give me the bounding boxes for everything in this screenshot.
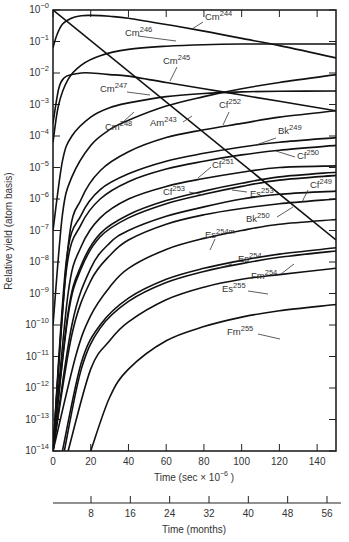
y-tick-label: 10−0 <box>29 1 49 15</box>
plot-frame <box>53 10 336 451</box>
series-label-am243: Am243 <box>150 115 177 128</box>
plot-border <box>53 10 336 451</box>
series-label-cf250: Cf250 <box>297 148 319 161</box>
y-tick-label: 10−1 <box>29 33 49 47</box>
series-line-cf249 <box>53 191 336 451</box>
series-label-cm244: Cm244 <box>205 9 232 22</box>
series-curves <box>53 10 336 451</box>
y-tick-label: 10−3 <box>29 96 49 110</box>
series-line-cm244 <box>53 15 336 58</box>
x-tick-label: 0 <box>50 456 56 467</box>
series-line-fm255 <box>91 305 336 452</box>
series-line-bk250 <box>53 199 336 451</box>
series-line-fm254 <box>64 251 336 451</box>
y-axis: 10−010−110−210−310−410−510−610−710−810−9… <box>25 1 336 456</box>
series-label-cf252: Cf252 <box>219 97 241 110</box>
x-tick-label: 40 <box>123 456 135 467</box>
series-label-es254m: Es254m <box>205 227 235 240</box>
y-tick-label: 10−9 <box>29 285 49 299</box>
month-tick-label: 40 <box>243 508 255 519</box>
month-tick-label: 16 <box>125 508 137 519</box>
series-label-es255: Es255 <box>222 281 246 294</box>
series-label-cf253: Cf253 <box>163 184 185 197</box>
x-tick-label: 100 <box>233 456 250 467</box>
month-tick-label: 24 <box>164 508 176 519</box>
x-axis: 020406080100120140 <box>50 10 326 467</box>
secondary-x-axis: 8162432404856 <box>53 496 341 519</box>
series-line-cf252 <box>53 111 336 451</box>
series-label-fm255: Fm255 <box>227 324 253 337</box>
y-tick-label: 10−8 <box>29 253 49 267</box>
y-axis-label: Relative yield (atom basis) <box>3 172 14 289</box>
y-tick-label: 10−2 <box>29 64 49 78</box>
series-line-cm248 <box>53 75 336 325</box>
series-label-cf249: Cf249 <box>310 177 332 190</box>
series-label-fm254: Fm254 <box>251 268 277 281</box>
y-tick-label: 10−5 <box>29 159 49 173</box>
month-tick-label: 8 <box>88 508 94 519</box>
series-label-cm245: Cm245 <box>163 53 190 66</box>
month-tick-label: 56 <box>321 508 333 519</box>
series-label-bk249: Bk249 <box>278 123 302 136</box>
y-tick-label: 10−12 <box>25 379 49 393</box>
series-label-cf251: Cf251 <box>212 157 234 170</box>
series-label-cm246: Cm246 <box>125 25 152 38</box>
y-tick-label: 10−14 <box>25 442 49 456</box>
series-label-bk250: Bk250 <box>246 211 270 224</box>
x-tick-label: 20 <box>85 456 97 467</box>
month-tick-label: 48 <box>282 508 294 519</box>
series-line-cf250 <box>53 145 336 451</box>
yield-chart: 10−010−110−210−310−410−510−610−710−810−9… <box>0 0 349 542</box>
y-tick-label: 10−6 <box>29 190 49 204</box>
series-label-cm247: Cm247 <box>100 81 127 94</box>
x-tick-label: 140 <box>309 456 326 467</box>
y-tick-label: 10−7 <box>29 222 49 236</box>
month-tick-label: 32 <box>203 508 215 519</box>
x-tick-label: 80 <box>198 456 210 467</box>
series-labels: Cm244Cm246Cm245Cm247Cm248Am243Cf252Bk249… <box>100 9 332 339</box>
x-axis-label: Time (sec × 10−6 ) <box>154 470 234 483</box>
series-label-cm248: Cm248 <box>105 119 132 132</box>
series-line-cf253 <box>53 172 336 451</box>
x-tick-label: 60 <box>161 456 173 467</box>
x-tick-label: 120 <box>271 456 288 467</box>
y-tick-label: 10−4 <box>29 127 49 141</box>
y-tick-label: 10−11 <box>26 348 49 362</box>
series-line-es255 <box>68 268 336 451</box>
series-line-bk249 <box>53 138 336 451</box>
y-tick-label: 10−10 <box>25 316 49 330</box>
series-line-es254 <box>62 248 336 451</box>
y-tick-label: 10−13 <box>25 411 49 425</box>
series-label-es253: Es253 <box>250 186 274 199</box>
secondary-x-axis-label: Time (months) <box>162 524 226 535</box>
